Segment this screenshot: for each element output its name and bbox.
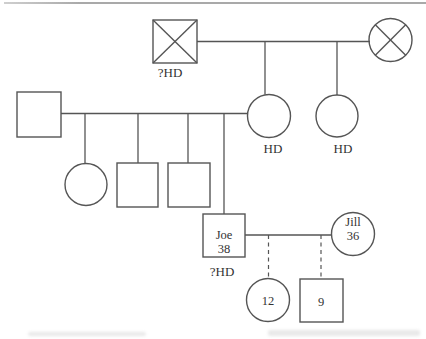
label-I1-status: ?HD (158, 65, 183, 80)
individual-III2-male-symbol (117, 163, 158, 207)
cropped-caption-fragment (268, 330, 420, 336)
label-joe-status: ?HD (210, 264, 235, 279)
cropped-caption-fragment (28, 332, 146, 336)
label-IV1-age: 12 (262, 294, 275, 308)
individual-II1-male-symbol (17, 92, 61, 137)
label-jill-age: 36 (347, 229, 360, 243)
individual-II2-female-affected-symbol (248, 95, 291, 138)
label-joe-name: Joe (216, 228, 233, 242)
label-II3-status: HD (334, 141, 353, 156)
individual-II3-female-affected-symbol (316, 95, 358, 137)
individual-III3-male-symbol (168, 163, 210, 207)
individual-III1-female-symbol (65, 164, 107, 206)
label-II2-status: HD (264, 141, 283, 156)
pedigree-figure: ?HD HD HD Joe 38 ?HD Jill 36 (0, 0, 426, 339)
label-joe-age: 38 (218, 242, 231, 256)
label-IV2-age: 9 (318, 295, 324, 309)
pedigree-diagram: ?HD HD HD Joe 38 ?HD Jill 36 (0, 0, 426, 339)
label-jill-name: Jill (345, 215, 361, 229)
